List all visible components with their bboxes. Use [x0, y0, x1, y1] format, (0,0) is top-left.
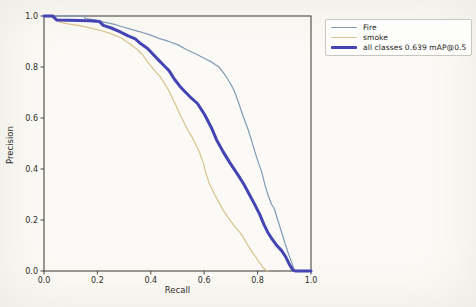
pr-curve-figure: 0.00.20.40.60.81.00.00.20.40.60.81.0 Rec…: [0, 0, 476, 307]
y-tick-label: 0.4: [25, 165, 38, 174]
x-tick-label: 0.2: [91, 276, 104, 285]
legend-box: Fire smoke all classes 0.639 mAP@0.5: [325, 19, 472, 56]
y-tick-label: 0.8: [25, 63, 38, 72]
x-tick-label: 0.6: [198, 276, 211, 285]
x-axis-label: Recall: [44, 285, 311, 295]
x-tick-label: 1.0: [305, 276, 318, 285]
legend-label-smoke: smoke: [363, 33, 388, 42]
y-tick-label: 0.0: [25, 267, 38, 276]
legend-line-swatch-fire: [331, 27, 357, 28]
curve-fire: [44, 16, 295, 271]
legend-line-swatch-smoke: [331, 37, 357, 38]
x-tick-label: 0.8: [251, 276, 264, 285]
y-tick-label: 0.6: [25, 114, 38, 123]
y-tick-label: 0.2: [25, 216, 38, 225]
x-tick-label: 0.0: [38, 276, 51, 285]
legend-item-all-classes: all classes 0.639 mAP@0.5: [331, 42, 466, 52]
legend-item-smoke: smoke: [331, 33, 466, 43]
legend-label-all-classes: all classes 0.639 mAP@0.5: [363, 43, 466, 52]
plot-frame: [44, 16, 311, 271]
y-axis-label: Precision: [5, 126, 15, 164]
x-tick-label: 0.4: [144, 276, 157, 285]
legend-item-fire: Fire: [331, 23, 466, 33]
legend-label-fire: Fire: [363, 23, 377, 32]
curve-smoke: [44, 16, 268, 271]
legend-line-swatch-all-classes: [331, 46, 357, 49]
curve-all: [44, 16, 311, 271]
y-tick-label: 1.0: [25, 12, 38, 21]
